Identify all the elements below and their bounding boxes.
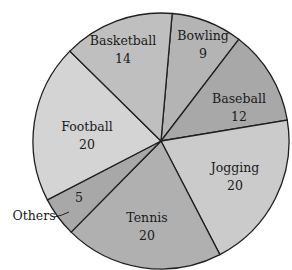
slice-value-football: 20	[79, 137, 95, 152]
slice-label-tennis: Tennis	[126, 210, 167, 225]
slice-value-tennis: 20	[139, 228, 155, 243]
pie-slices	[33, 13, 289, 269]
slice-label-football: Football	[61, 119, 113, 134]
slice-label-baseball: Baseball	[212, 91, 266, 106]
slice-value-basketball: 14	[115, 51, 131, 66]
pie-chart: Bowling9Baseball12Jogging20Tennis205Foot…	[0, 0, 292, 270]
slice-value-baseball: 12	[231, 109, 247, 124]
slice-value-others: 5	[75, 190, 83, 205]
slice-value-jogging: 20	[227, 178, 243, 193]
slice-label-basketball: Basketball	[90, 33, 157, 48]
external-label-others: Others	[12, 208, 55, 223]
slice-label-jogging: Jogging	[209, 160, 260, 175]
slice-value-bowling: 9	[199, 46, 207, 61]
slice-label-bowling: Bowling	[177, 28, 228, 43]
